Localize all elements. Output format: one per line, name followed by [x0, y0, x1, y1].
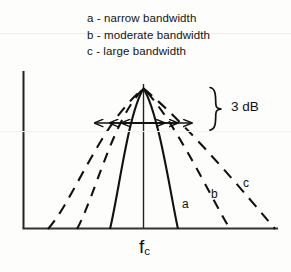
curve-label-c: c [243, 176, 249, 190]
legend-item-c: c - large bandwidth [87, 43, 210, 60]
legend-item-b: b - moderate bandwidth [87, 27, 210, 44]
three-db-label: 3 dB [231, 99, 259, 114]
curve-label-b: b [211, 187, 218, 201]
legend: a - narrow bandwidth b - moderate bandwi… [87, 10, 210, 60]
figure-canvas: a - narrow bandwidth b - moderate bandwi… [0, 0, 291, 272]
curve-label-a: a [182, 197, 189, 211]
three-db-brace [210, 88, 222, 131]
legend-item-a: a - narrow bandwidth [87, 10, 210, 27]
curve-b-moderate-bandwidth [77, 89, 230, 230]
